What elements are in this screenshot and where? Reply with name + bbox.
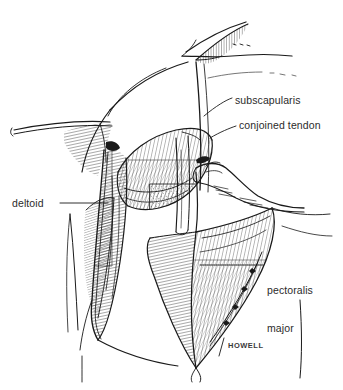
label-conjoined-tendon: conjoined tendon: [239, 119, 321, 132]
label-pectoralis-major: pectoralis major: [267, 259, 313, 359]
label-pectoralis-line2: major: [267, 322, 313, 335]
artist-signature: HOWELL: [228, 341, 264, 350]
label-deltoid: deltoid: [12, 197, 44, 210]
label-pectoralis-line1: pectoralis: [267, 284, 313, 297]
label-subscapularis: subscapularis: [235, 94, 301, 107]
anatomical-illustration: subscapularis conjoined tendon deltoid p…: [0, 0, 343, 390]
